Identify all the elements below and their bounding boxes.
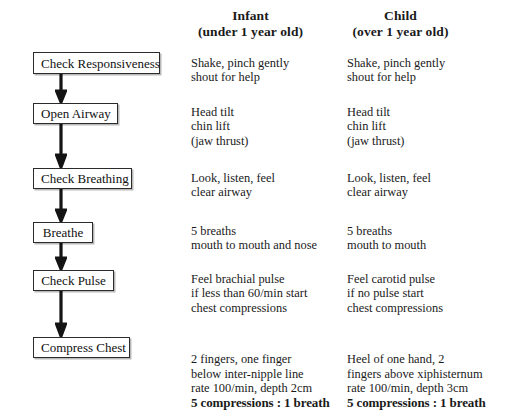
flow-box-check-breathing[interactable]: Check Breathing: [33, 168, 132, 189]
step-text-child-breathe: 5 breaths mouth to mouth: [347, 224, 507, 253]
down-arrow-icon: [55, 124, 67, 168]
step-text-child-open-airway: Head tilt chin lift (jaw thrust): [347, 105, 507, 148]
step-text-infant-compress-chest: 2 fingers, one finger below inter-nipple…: [191, 338, 341, 415]
column-header-infant: Infant (under 1 year old): [178, 8, 323, 40]
step-text-child-compress-chest: Heel of one hand, 2 fingers above xiphis…: [347, 338, 507, 415]
flow-box-check-responsiveness[interactable]: Check Responsiveness: [33, 52, 160, 74]
step-text-infant-check-pulse: Feel brachial pulse if less than 60/min …: [191, 272, 341, 315]
step-text-infant-check-breathing: Look, listen, feel clear airway: [191, 171, 341, 200]
step-text-child-compress-chest-detail: Heel of one hand, 2 fingers above xiphis…: [347, 352, 483, 395]
bls-flowchart: Infant (under 1 year old) Child (over 1 …: [0, 0, 512, 415]
step-text-child-check-pulse: Feel carotid pulse if no pulse start che…: [347, 272, 507, 315]
column-header-child: Child (over 1 year old): [328, 8, 473, 40]
step-text-child-check-breathing: Look, listen, feel clear airway: [347, 171, 507, 200]
down-arrow-icon: [55, 189, 67, 222]
step-text-infant-compress-ratio: 5 compressions : 1 breath: [191, 396, 341, 410]
step-text-child-compress-ratio: 5 compressions : 1 breath: [347, 396, 507, 410]
step-text-infant-breathe: 5 breaths mouth to mouth and nose: [191, 224, 341, 253]
column-title-infant: Infant: [178, 8, 323, 24]
down-arrow-icon: [55, 291, 67, 337]
flow-box-compress-chest[interactable]: Compress Chest: [33, 337, 130, 358]
step-text-infant-open-airway: Head tilt chin lift (jaw thrust): [191, 105, 341, 148]
step-text-infant-check-responsiveness: Shake, pinch gently shout for help: [191, 56, 341, 85]
down-arrow-icon: [55, 243, 67, 270]
flow-box-open-airway[interactable]: Open Airway: [33, 103, 118, 124]
column-title-child: Child: [328, 8, 473, 24]
column-subtitle-child: (over 1 year old): [328, 24, 473, 40]
column-subtitle-infant: (under 1 year old): [178, 24, 323, 40]
step-text-child-check-responsiveness: Shake, pinch gently shout for help: [347, 56, 507, 85]
flow-box-breathe[interactable]: Breathe: [33, 222, 93, 243]
step-text-infant-compress-chest-detail: 2 fingers, one finger below inter-nipple…: [191, 352, 312, 395]
down-arrow-icon: [55, 74, 67, 103]
flow-box-check-pulse[interactable]: Check Pulse: [33, 270, 114, 291]
